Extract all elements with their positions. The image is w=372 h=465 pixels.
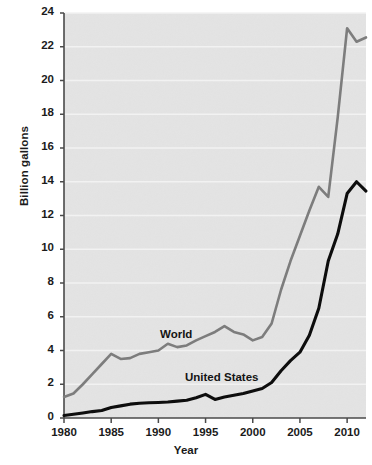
y-tick-label: 6 xyxy=(26,309,54,321)
series-annotation-united-states: United States xyxy=(185,371,259,383)
y-tick-label: 14 xyxy=(26,174,54,186)
x-tick-label: 2010 xyxy=(325,426,369,438)
plot-area xyxy=(0,0,372,465)
x-tick-label: 1985 xyxy=(89,426,133,438)
y-tick-label: 20 xyxy=(26,73,54,85)
y-tick-label: 12 xyxy=(26,208,54,220)
y-tick-label: 8 xyxy=(26,275,54,287)
y-tick-label: 18 xyxy=(26,106,54,118)
x-tick-label: 2000 xyxy=(231,426,275,438)
y-tick-label: 22 xyxy=(26,39,54,51)
y-tick-label: 4 xyxy=(26,343,54,355)
y-tick-label: 10 xyxy=(26,241,54,253)
x-tick-label: 1995 xyxy=(184,426,228,438)
y-tick-label: 0 xyxy=(26,410,54,422)
y-tick-label: 16 xyxy=(26,140,54,152)
series-annotation-world: World xyxy=(160,328,192,340)
x-tick-label: 1980 xyxy=(42,426,86,438)
x-tick-label: 1990 xyxy=(136,426,180,438)
y-tick-label: 24 xyxy=(26,5,54,17)
x-tick-label: 2005 xyxy=(278,426,322,438)
y-tick-label: 2 xyxy=(26,376,54,388)
chart-figure: Billion gallons Year 2422201816141210864… xyxy=(0,0,372,465)
